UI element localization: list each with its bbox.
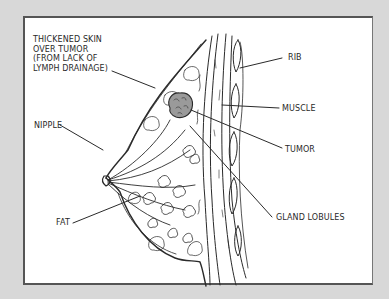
milk-ducts	[108, 120, 195, 225]
tumor-mass	[169, 93, 193, 118]
label-nipple: NIPPLE	[34, 121, 62, 131]
fat-lobules	[128, 66, 202, 255]
rib-icon	[229, 40, 248, 268]
label-fat: FAT	[56, 218, 70, 228]
label-tumor: TUMOR	[285, 145, 315, 155]
label-rib: RIB	[288, 53, 302, 63]
leader-lines	[60, 58, 282, 223]
label-gland-lobules: GLAND LOBULES	[276, 213, 345, 223]
label-muscle: MUSCLE	[282, 104, 316, 114]
label-thickened-skin: THICKENED SKIN OVER TUMOR (FROM LACK OF …	[33, 35, 108, 73]
